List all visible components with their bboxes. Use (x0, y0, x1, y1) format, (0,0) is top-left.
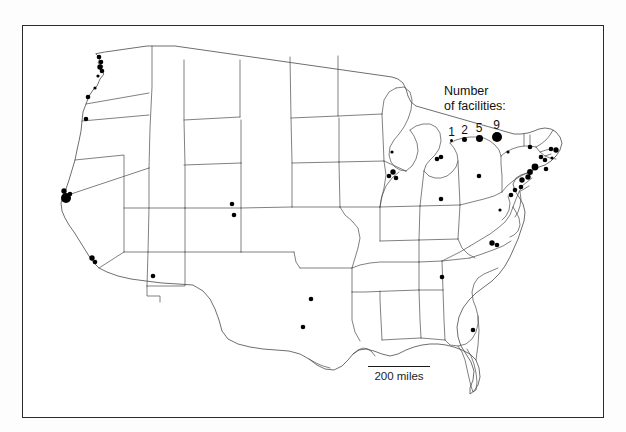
legend-class-label: 9 (488, 119, 506, 131)
legend-class-1: 1 (446, 126, 457, 142)
map-legend: Number of facilities: 1259 (444, 84, 554, 142)
facilities-map-figure: Number of facilities: 1259 200 miles (0, 0, 626, 432)
legend-title-line-2: of facilities: (444, 99, 554, 114)
legend-class-symbol (492, 132, 502, 142)
legend-class-symbol (462, 137, 467, 142)
legend-class-label: 2 (458, 124, 471, 136)
legend-class-5: 5 (472, 122, 487, 142)
legend-class-label: 5 (472, 122, 487, 134)
legend-class-2: 2 (458, 124, 471, 142)
legend-class-label: 1 (446, 126, 457, 138)
legend-class-symbol (476, 135, 483, 142)
legend-class-symbol (450, 139, 453, 142)
scale-bar-line (368, 366, 430, 367)
scale-bar-label: 200 miles (358, 370, 440, 382)
legend-title-line-1: Number (444, 84, 554, 99)
legend-class-9: 9 (488, 119, 506, 142)
legend-symbol-row: 1259 (444, 116, 554, 142)
map-scale: 200 miles (358, 366, 440, 382)
